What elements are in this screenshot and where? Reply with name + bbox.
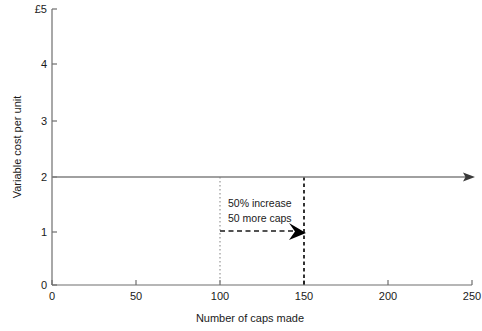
x-tick-label-200: 200 <box>379 290 397 302</box>
y-tick-label-3: 3 <box>41 115 47 127</box>
y-tick-label-2: 2 <box>41 171 47 183</box>
x-tick-label-100: 100 <box>211 290 229 302</box>
y-tick-label-5: £5 <box>35 3 47 15</box>
chart-container: £5 4 3 2 1 0 0 50 100 150 200 250 Number… <box>0 0 482 331</box>
x-tick-label-50: 50 <box>130 290 142 302</box>
x-tick-label-0: 0 <box>49 290 55 302</box>
increase-annotation-line2: 50 more caps <box>228 212 292 224</box>
y-tick-label-0: 0 <box>41 279 47 291</box>
x-tick-label-150: 150 <box>295 290 313 302</box>
x-axis-ticks <box>52 280 472 285</box>
y-tick-label-4: 4 <box>41 58 47 70</box>
increase-annotation-line1: 50% increase <box>228 197 292 209</box>
chart-svg: £5 4 3 2 1 0 0 50 100 150 200 250 Number… <box>0 0 482 331</box>
x-tick-label-250: 250 <box>463 290 481 302</box>
y-axis-ticks <box>52 9 57 285</box>
y-tick-label-1: 1 <box>41 226 47 238</box>
x-axis-title: Number of caps made <box>196 312 304 324</box>
y-axis-title: Variable cost per unit <box>11 96 23 199</box>
